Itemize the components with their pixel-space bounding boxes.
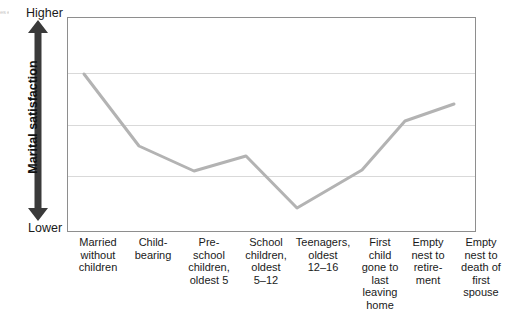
- y-axis: Higher Marital satisfaction Lower: [0, 0, 67, 245]
- x-axis-label-0: Married without children: [67, 236, 129, 274]
- x-axis-label-7: Empty nest to death of first spouse: [452, 236, 506, 299]
- x-axis-label-4: Teenagers, oldest 12–16: [288, 236, 358, 274]
- y-axis-low-label: Lower: [28, 221, 62, 235]
- y-axis-title: Marital satisfaction: [26, 32, 40, 202]
- x-axis-labels: Married without childrenChild- bearingPr…: [67, 236, 490, 315]
- x-axis-label-6: Empty nest to retire- ment: [401, 236, 455, 286]
- chart-plot-area: [67, 17, 476, 232]
- chart-series-line: [84, 74, 454, 208]
- chart-gridlines: [68, 74, 475, 177]
- x-axis-label-1: Child- bearing: [125, 236, 181, 261]
- x-axis-label-5: First child gone to last leaving home: [353, 236, 407, 312]
- y-axis-high-label: Higher: [26, 6, 63, 20]
- x-axis-label-2: Pre- school children, oldest 5: [178, 236, 240, 286]
